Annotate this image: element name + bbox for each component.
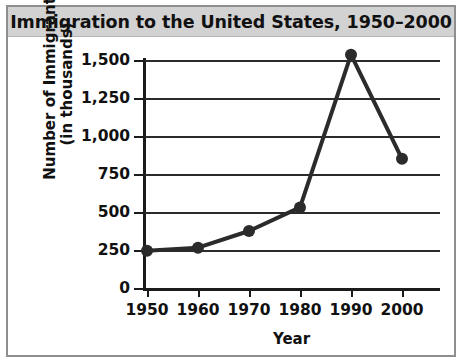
x-axis-tick — [147, 288, 149, 297]
x-axis-tick — [351, 288, 353, 297]
x-axis-title: Year — [143, 330, 440, 348]
y-axis-tick-label: 750 — [60, 165, 130, 183]
data-point — [141, 245, 153, 257]
x-axis-line — [143, 288, 440, 291]
x-axis-tick — [198, 288, 200, 297]
data-point — [294, 201, 306, 213]
y-axis-tick — [134, 136, 143, 138]
x-axis-tick — [300, 288, 302, 297]
y-axis-tick — [134, 174, 143, 176]
data-point — [396, 153, 408, 165]
y-axis-tick-label: 500 — [60, 203, 130, 221]
data-point — [192, 242, 204, 254]
y-axis-tick-label: 1,250 — [60, 89, 130, 107]
series-line — [147, 55, 402, 251]
chart-figure: Immigration to the United States, 1950–2… — [0, 0, 462, 363]
y-axis-tick-label: 1,500 — [60, 51, 130, 69]
x-axis-tick — [402, 288, 404, 297]
data-point — [345, 49, 357, 61]
x-axis-tick — [249, 288, 251, 297]
y-axis-title-line1: Number of Immigrants — [42, 0, 59, 180]
x-axis-tick-label: 2000 — [372, 301, 432, 319]
y-axis-tick — [134, 98, 143, 100]
line-series — [145, 60, 440, 288]
y-axis-tick-label: 1,000 — [60, 127, 130, 145]
y-axis-tick-label: 0 — [60, 279, 130, 297]
y-axis-tick — [134, 212, 143, 214]
y-axis-tick-label: 250 — [60, 241, 130, 259]
plot-area — [145, 60, 440, 288]
data-point — [243, 225, 255, 237]
y-axis-tick — [134, 288, 143, 290]
y-axis-tick — [134, 60, 143, 62]
